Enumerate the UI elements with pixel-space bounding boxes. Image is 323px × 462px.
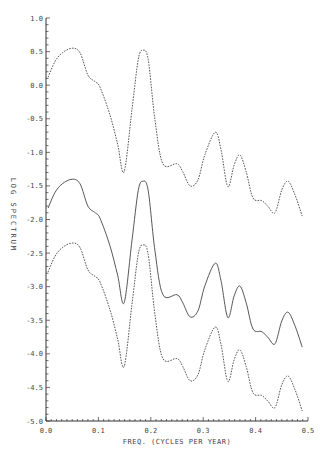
y-axis-title-letter: G (9, 190, 17, 195)
log-spectrum-chart: 1.00.50.0-0.5-1.0-1.5-2.0-2.5-3.0-3.5-4.… (0, 0, 323, 462)
x-tick-label: 0.0 (40, 427, 53, 435)
data-series (48, 48, 302, 411)
y-axis-title-letter: S (9, 202, 17, 207)
x-tick-label: 0.4 (249, 427, 262, 435)
y-tick-label: -3.5 (26, 317, 43, 325)
y-tick-label: 1.0 (30, 15, 43, 23)
x-tick-label: 0.5 (302, 427, 315, 435)
y-tick-label: -4.5 (26, 384, 43, 392)
y-tick-label: -1.5 (26, 182, 43, 190)
y-tick-label: -1.0 (26, 149, 43, 157)
x-minor-ticks (46, 417, 308, 421)
y-tick-label: -0.5 (26, 115, 43, 123)
y-tick-label: 0.0 (30, 82, 43, 90)
x-tick-label: 0.1 (92, 427, 105, 435)
y-axis-title-letter: O (9, 184, 17, 189)
y-axis-title-letter: U (9, 240, 17, 245)
x-tick-labels: 0.00.10.20.30.40.5 (40, 427, 315, 435)
y-axis-title-letter: L (9, 178, 17, 183)
y-tick-label: -3.0 (26, 283, 43, 291)
y-axis-title-letter: E (9, 215, 17, 220)
y-tick-label: -2.0 (26, 216, 43, 224)
x-tick-label: 0.2 (144, 427, 157, 435)
y-tick-label: 0.5 (30, 48, 43, 56)
y-axis-title-letter: R (9, 233, 17, 238)
x-tick-label: 0.3 (197, 427, 210, 435)
y-tick-label: -4.0 (26, 350, 43, 358)
series-line-3 (48, 243, 302, 411)
series-line-2 (48, 179, 302, 347)
y-axis-title-letter: T (9, 227, 17, 232)
series-line-1 (48, 48, 302, 216)
y-minor-ticks (46, 18, 50, 421)
y-axis-title-letter: P (9, 209, 17, 214)
y-tick-labels: 1.00.50.0-0.5-1.0-1.5-2.0-2.5-3.0-3.5-4.… (26, 15, 43, 426)
x-axis-title: FREQ. (CYCLES PER YEAR) (123, 438, 231, 446)
y-tick-label: -5.0 (26, 418, 43, 426)
axes: 1.00.50.0-0.5-1.0-1.5-2.0-2.5-3.0-3.5-4.… (26, 15, 314, 436)
y-tick-label: -2.5 (26, 250, 43, 258)
y-axis-title-letter: C (9, 221, 17, 226)
y-axis-title-letter: M (9, 246, 17, 251)
y-axis-title: LOGSPECTRUM (9, 178, 17, 251)
